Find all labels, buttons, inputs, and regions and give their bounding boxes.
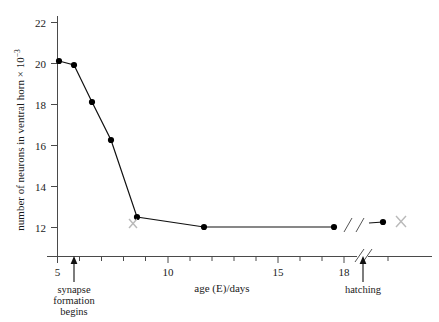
hatching-label: hatching [345,284,382,295]
data-point [380,219,386,225]
data-point [201,224,207,230]
synapse-label-line-1: synapse [57,284,91,295]
data-point [56,58,62,64]
y-tick-label-16: 16 [35,140,47,152]
x-tick-label-18: 18 [339,266,351,278]
synapse-label-line-3: begins [60,306,87,317]
y-axis-title-exponent: −3 [13,49,22,57]
y-axis: 22 20 18 16 14 12 number of neurons in v… [13,16,58,256]
data-line-break-slash-2 [356,218,364,232]
y-tick-label-20: 20 [35,58,47,70]
x-tick-label-5: 5 [55,266,61,278]
y-tick-label-22: 22 [35,17,46,29]
y-tick-label-12: 12 [35,222,46,234]
hatching-annotation: hatching [345,256,382,295]
y-axis-title-main: number of neurons in ventral horn × 10 [14,57,26,231]
data-point [108,137,114,143]
handwritten-x-left-icon [129,219,137,228]
y-axis-title-group: number of neurons in ventral horn × 10−3 [13,49,26,231]
data-series-neurons [56,58,386,232]
y-tick-label-18: 18 [35,99,47,111]
synapse-label-line-2: formation [53,295,95,306]
data-point [331,224,337,230]
data-point [89,99,95,105]
x-axis-title: age (E)/days [194,282,249,295]
hatching-arrow-head-icon [360,256,367,264]
data-point [71,62,77,68]
x-tick-label-15: 15 [273,266,285,278]
synapse-arrow-head-icon [71,256,78,264]
data-line-break [344,218,364,232]
y-axis-title: number of neurons in ventral horn × 10−3 [13,49,26,231]
y-tick-label-14: 14 [35,181,47,193]
x-tick-label-10: 10 [163,266,175,278]
chart-figure: 22 20 18 16 14 12 number of neurons in v… [0,0,439,322]
data-line-segment-main [59,61,334,227]
handwritten-x-right-icon [396,216,406,227]
data-line-break-slash-1 [344,218,352,232]
line-chart-svg: 22 20 18 16 14 12 number of neurons in v… [0,0,439,322]
